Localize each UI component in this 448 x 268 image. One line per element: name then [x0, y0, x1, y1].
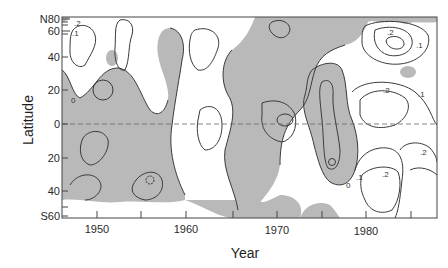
- contour-label: .2: [383, 86, 390, 95]
- y-tick-labels: N80 60 40 20 0 20 40 S60: [40, 13, 60, 222]
- contour-label: 0: [71, 96, 76, 105]
- plot-area: [62, 17, 437, 218]
- y-tick-label: 0: [54, 118, 60, 130]
- x-tick-label: 1960: [174, 223, 198, 235]
- contour-label: .2: [74, 19, 81, 28]
- y-tick-label: 40: [48, 51, 60, 63]
- contour-label: .1: [356, 173, 363, 182]
- y-tick-label: 60: [48, 25, 60, 37]
- y-tick-label: N80: [40, 13, 60, 25]
- contour-label: .1: [72, 29, 79, 38]
- y-tick-label: S60: [40, 210, 60, 222]
- contour-label: 0: [346, 181, 351, 190]
- y-tick-label: 20: [48, 152, 60, 164]
- y-tick-label: 40: [48, 185, 60, 197]
- contour-label: .2: [382, 170, 389, 179]
- y-tick-label: 20: [48, 84, 60, 96]
- contour-label: .2: [420, 148, 427, 157]
- x-tick-labels: 1950 1960 1970 1980: [85, 223, 378, 237]
- x-tick-label: 1970: [265, 224, 289, 236]
- contour-label: .2: [387, 28, 394, 37]
- x-axis-title: Year: [231, 245, 260, 261]
- x-tick-label: 1950: [85, 223, 109, 235]
- x-tick-label: 1980: [354, 225, 378, 237]
- contour-label: .1: [416, 41, 423, 50]
- contour-label: .1: [418, 90, 425, 99]
- contour-chart: .2 .1 0 .2 .1 .2 .1 .2 .2 .1 0 N80 60 40…: [0, 0, 448, 268]
- y-axis-title: Latitude: [20, 95, 36, 145]
